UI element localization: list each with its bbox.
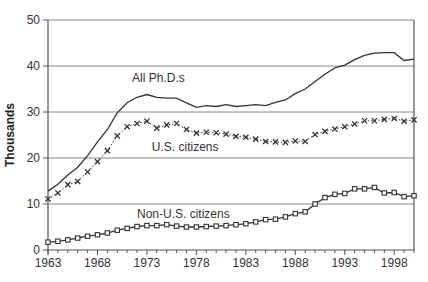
square-marker xyxy=(56,239,60,243)
x-marker xyxy=(303,139,308,144)
series-label: U.S. citizens xyxy=(152,140,219,154)
square-marker xyxy=(254,220,258,224)
square-marker xyxy=(194,225,198,229)
square-marker xyxy=(174,224,178,228)
x-marker xyxy=(75,179,80,184)
square-marker xyxy=(95,233,99,237)
square-marker xyxy=(352,187,356,191)
square-marker xyxy=(165,223,169,227)
y-axis-label: Thousands xyxy=(3,103,17,167)
x-marker xyxy=(283,140,288,145)
y-tick-label: 30 xyxy=(27,105,41,119)
x-marker xyxy=(352,121,357,126)
x-marker xyxy=(293,138,298,143)
x-marker xyxy=(95,159,100,164)
x-marker xyxy=(105,148,110,153)
axes: 0102030405019631968197319781983198819931… xyxy=(27,13,414,270)
x-marker xyxy=(55,190,60,195)
series-label: Non-U.S. citizens xyxy=(137,207,230,221)
x-marker xyxy=(223,131,228,136)
square-marker xyxy=(105,231,109,235)
square-marker xyxy=(155,223,159,227)
square-marker xyxy=(382,191,386,195)
x-marker xyxy=(342,124,347,129)
square-marker xyxy=(293,211,297,215)
x-marker xyxy=(322,129,327,134)
series-line xyxy=(48,53,414,191)
square-marker xyxy=(362,187,366,191)
x-tick-label: 1978 xyxy=(183,256,210,270)
x-marker xyxy=(134,121,139,126)
x-tick-label: 1963 xyxy=(35,256,62,270)
y-tick-label: 40 xyxy=(27,59,41,73)
square-marker xyxy=(145,223,149,227)
series-line xyxy=(48,118,414,198)
square-marker xyxy=(66,238,70,242)
series-lines xyxy=(45,53,416,245)
y-tick-label: 50 xyxy=(27,13,41,27)
x-marker xyxy=(85,169,90,174)
square-marker xyxy=(343,191,347,195)
square-marker xyxy=(75,236,79,240)
square-marker xyxy=(115,228,119,232)
x-marker xyxy=(65,182,70,187)
x-tick-label: 1998 xyxy=(381,256,408,270)
x-tick-label: 1993 xyxy=(331,256,358,270)
square-marker xyxy=(125,226,129,230)
x-marker xyxy=(164,122,169,127)
square-marker xyxy=(313,202,317,206)
square-marker xyxy=(46,240,50,244)
x-marker xyxy=(214,130,219,135)
x-marker xyxy=(204,130,209,135)
y-tick-label: 0 xyxy=(33,243,40,257)
x-marker xyxy=(125,124,130,129)
square-marker xyxy=(273,217,277,221)
series-all-ph-d-s xyxy=(48,53,414,191)
square-marker xyxy=(372,185,376,189)
square-marker xyxy=(224,223,228,227)
square-marker xyxy=(283,215,287,219)
series-label: All Ph.D.s xyxy=(132,71,185,85)
x-tick-label: 1968 xyxy=(84,256,111,270)
square-marker xyxy=(263,217,267,221)
y-tick-label: 20 xyxy=(27,151,41,165)
square-marker xyxy=(412,194,416,198)
x-tick-label: 1988 xyxy=(282,256,309,270)
x-marker xyxy=(233,134,238,139)
line-chart: 0102030405019631968197319781983198819931… xyxy=(0,0,428,282)
y-tick-label: 10 xyxy=(27,197,41,211)
gridlines xyxy=(48,20,414,204)
square-marker xyxy=(392,190,396,194)
x-marker xyxy=(144,119,149,124)
x-marker xyxy=(273,139,278,144)
series-labels: All Ph.D.sU.S. citizensNon-U.S. citizens xyxy=(132,71,230,221)
square-marker xyxy=(333,192,337,196)
x-marker xyxy=(184,127,189,132)
x-tick-label: 1973 xyxy=(134,256,161,270)
series-non-u-s-citizens xyxy=(46,185,416,244)
square-marker xyxy=(85,234,89,238)
square-marker xyxy=(184,225,188,229)
x-marker xyxy=(332,126,337,131)
square-marker xyxy=(234,223,238,227)
x-marker xyxy=(174,121,179,126)
square-marker xyxy=(402,194,406,198)
square-marker xyxy=(204,224,208,228)
x-marker xyxy=(154,126,159,131)
x-marker xyxy=(115,133,120,138)
square-marker xyxy=(135,224,139,228)
x-marker xyxy=(362,118,367,123)
x-tick-label: 1983 xyxy=(232,256,259,270)
square-marker xyxy=(323,195,327,199)
series-line xyxy=(48,187,414,242)
x-marker xyxy=(312,132,317,137)
square-marker xyxy=(244,222,248,226)
square-marker xyxy=(214,224,218,228)
square-marker xyxy=(303,210,307,214)
